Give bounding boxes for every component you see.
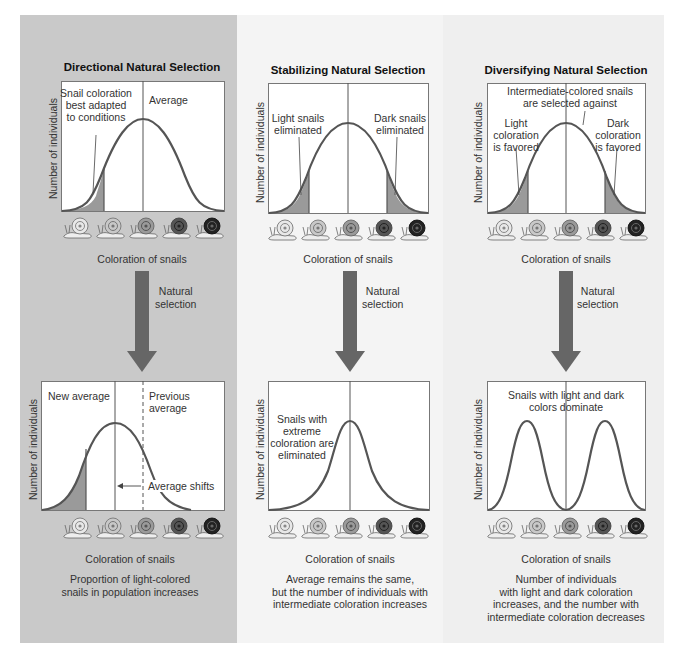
label-extreme-eliminated: Snails with extreme coloration are elimi… xyxy=(270,413,334,461)
label-light-snails-eliminated: Light snails eliminated xyxy=(272,112,325,136)
label-previous-average: Previous average xyxy=(149,390,190,414)
y-axis-label: Number of individuals xyxy=(47,98,59,199)
x-axis-label: Coloration of snails xyxy=(303,253,392,266)
down-arrow-icon xyxy=(335,271,365,373)
label-light-coloration-favored: Light coloration is favored xyxy=(493,117,539,153)
arrow-label-natural-selection: Natural selection xyxy=(362,285,403,310)
label-average: Average xyxy=(149,94,188,106)
title-directional: Directional Natural Selection xyxy=(64,61,221,73)
x-axis-label: Coloration of snails xyxy=(85,553,174,566)
result-caption-diversifying: Number of individuals with light and dar… xyxy=(487,573,645,623)
title-stabilizing: Stabilizing Natural Selection xyxy=(271,64,426,76)
arrow-label-natural-selection: Natural selection xyxy=(155,285,196,310)
label-new-average: New average xyxy=(48,390,110,402)
label-light-dark-dominate: Snails with light and dark colors domina… xyxy=(508,389,624,413)
snail-row-directional-top xyxy=(61,216,226,242)
x-axis-label: Coloration of snails xyxy=(97,253,186,266)
y-axis-label: Number of individuals xyxy=(254,102,266,203)
stabilizing-before-chart xyxy=(268,83,429,214)
arrow-label-natural-selection: Natural selection xyxy=(577,285,618,310)
label-snail-coloration-best: Snail coloration best adapted to conditi… xyxy=(60,87,132,123)
label-dark-coloration-favored: Dark coloration is favored xyxy=(595,117,641,153)
label-intermediate-selected-against: Intermediate-colored snails are selected… xyxy=(507,85,633,109)
snail-row-diversifying-bottom xyxy=(485,516,650,542)
title-diversifying: Diversifying Natural Selection xyxy=(485,64,648,76)
y-axis-label: Number of individuals xyxy=(472,102,484,203)
result-caption-stabilizing: Average remains the same, but the number… xyxy=(272,573,428,611)
result-caption-directional: Proportion of light-colored snails in po… xyxy=(61,573,198,598)
down-arrow-icon xyxy=(127,271,157,373)
label-dark-snails-eliminated: Dark snails eliminated xyxy=(374,112,426,136)
snail-row-stabilizing-top xyxy=(266,218,431,244)
x-axis-label: Coloration of snails xyxy=(521,553,610,566)
snail-row-directional-bottom xyxy=(61,516,226,542)
x-axis-label: Coloration of snails xyxy=(521,253,610,266)
y-axis-label: Number of individuals xyxy=(254,399,266,500)
snail-row-diversifying-top xyxy=(485,218,650,244)
y-axis-label: Number of individuals xyxy=(472,399,484,500)
label-average-shifts: Average shifts xyxy=(147,480,215,492)
snail-row-stabilizing-bottom xyxy=(266,516,431,542)
x-axis-label: Coloration of snails xyxy=(305,553,394,566)
y-axis-label: Number of individuals xyxy=(27,399,39,500)
